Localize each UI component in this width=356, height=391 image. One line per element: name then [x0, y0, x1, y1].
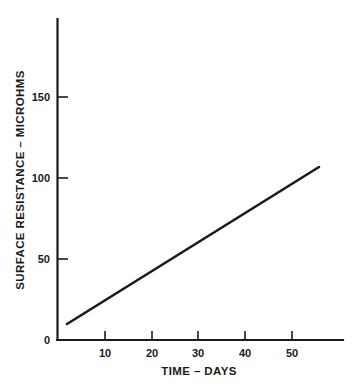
y-tick-label-150: 150	[32, 91, 50, 103]
x-tick-label-10: 10	[99, 347, 111, 359]
x-axis-title: TIME – DAYS	[161, 365, 237, 377]
x-tick-label-20: 20	[146, 347, 158, 359]
line-chart: 0 50 100 150 10 20 30 40 50 TIME – DAYS …	[0, 0, 356, 391]
y-tick-label-0: 0	[44, 334, 50, 346]
y-axis-title: SURFACE RESISTANCE – MICROHMS	[14, 70, 26, 290]
x-tick-label-40: 40	[239, 347, 251, 359]
x-axis-tick-labels: 10 20 30 40 50	[99, 347, 298, 359]
y-axis-tick-labels: 0 50 100 150	[32, 91, 50, 346]
x-axis-ticks	[105, 331, 292, 340]
y-tick-label-100: 100	[32, 172, 50, 184]
y-axis-ticks	[58, 97, 68, 259]
x-tick-label-50: 50	[286, 347, 298, 359]
chart-figure: 0 50 100 150 10 20 30 40 50 TIME – DAYS …	[0, 0, 356, 391]
data-series-line	[67, 167, 319, 324]
x-tick-label-30: 30	[192, 347, 204, 359]
y-tick-label-50: 50	[38, 253, 50, 265]
